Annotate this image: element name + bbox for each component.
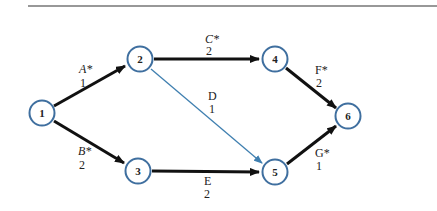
arc-G-activity: G* bbox=[315, 146, 330, 160]
arc-F-activity: F* bbox=[315, 63, 328, 77]
node-4: 4 bbox=[263, 47, 288, 72]
svg-text:6: 6 bbox=[345, 110, 351, 122]
arc-E bbox=[152, 171, 259, 172]
arc-E-duration: 2 bbox=[204, 187, 210, 201]
arc-A-activity: A* bbox=[78, 62, 92, 76]
arc-D-duration: 1 bbox=[209, 102, 215, 116]
arc-F-duration: 2 bbox=[316, 76, 322, 90]
arc-D-activity: D bbox=[208, 89, 217, 103]
node-2: 2 bbox=[128, 47, 153, 72]
arc-F bbox=[286, 68, 336, 108]
network-diagram: 1 2 3 4 5 6 A* 1 B* 2 C* 2 D 1 E 2 F* 2 … bbox=[0, 0, 437, 211]
node-1: 1 bbox=[30, 101, 55, 126]
node-5: 5 bbox=[263, 160, 288, 185]
node-6: 6 bbox=[336, 104, 361, 129]
arc-E-activity: E bbox=[204, 174, 211, 188]
svg-text:4: 4 bbox=[272, 53, 278, 65]
svg-text:5: 5 bbox=[272, 166, 278, 178]
arc-G-duration: 1 bbox=[316, 159, 322, 173]
svg-text:1: 1 bbox=[39, 107, 45, 119]
arc-D bbox=[151, 69, 262, 163]
svg-text:3: 3 bbox=[135, 165, 141, 177]
svg-text:2: 2 bbox=[137, 53, 143, 65]
arc-B-duration: 2 bbox=[79, 158, 85, 172]
arc-A-duration: 1 bbox=[80, 76, 86, 90]
arc-B-activity: B* bbox=[78, 144, 91, 158]
node-3: 3 bbox=[126, 159, 151, 184]
arc-C-duration: 2 bbox=[206, 44, 212, 58]
